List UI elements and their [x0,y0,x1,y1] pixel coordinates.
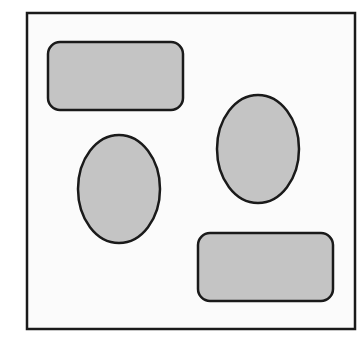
diagram-canvas [0,0,363,349]
ellipse-left [78,135,160,243]
rect-top-left [48,42,183,110]
ellipse-right [217,95,299,203]
rect-bottom-right [198,233,333,301]
